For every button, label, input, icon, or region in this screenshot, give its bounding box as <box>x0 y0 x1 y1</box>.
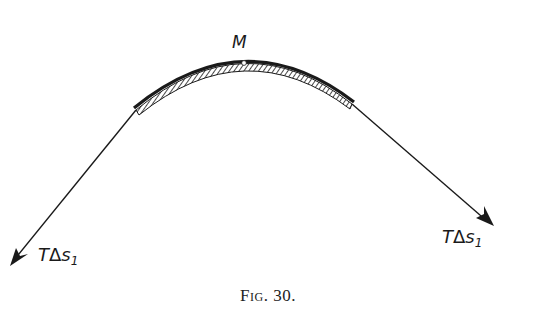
right-arrowhead-icon <box>476 206 494 226</box>
point-label-m: M <box>232 32 247 52</box>
string-element-band <box>136 63 352 115</box>
right-tangent-line <box>352 104 488 222</box>
left-arrowhead-icon <box>10 248 28 266</box>
left-tangent-line <box>14 110 136 260</box>
figure: M TΔs1 TΔs1 Fig. 30. <box>0 0 536 323</box>
right-force-label: TΔs1 <box>442 226 482 250</box>
figure-caption: Fig. 30. <box>0 286 536 306</box>
caption-text: Fig. 30. <box>240 286 296 305</box>
apex-point <box>242 61 247 66</box>
left-force-label: TΔs1 <box>38 244 78 268</box>
diagram-canvas: M TΔs1 TΔs1 <box>0 0 536 323</box>
